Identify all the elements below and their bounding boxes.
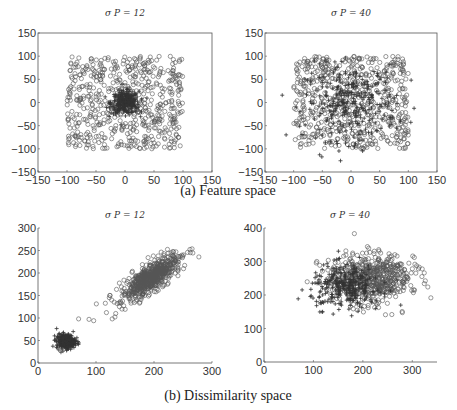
y-tick-label: 150 xyxy=(245,27,263,39)
x-tick-label: −100 xyxy=(281,174,306,186)
y-tick-label: −150 xyxy=(11,166,36,178)
y-tick-label: 200 xyxy=(18,267,36,279)
x-tick-label: 200 xyxy=(354,364,372,376)
y-tick-label: 50 xyxy=(24,73,36,85)
x-tick-label: −50 xyxy=(87,174,106,186)
y-tick-label: 100 xyxy=(18,312,36,324)
scatter-plots-canvas: −150−100−50050100150−150−100−50050100150… xyxy=(0,0,457,410)
chart-feature-sigma40: −150−100−50050100150−150−100−50050100150 xyxy=(238,27,446,186)
x-tick-label: 50 xyxy=(374,174,386,186)
y-tick-label: −50 xyxy=(17,120,36,132)
y-tick-label: 0 xyxy=(30,97,36,109)
y-tick-label: 150 xyxy=(18,27,36,39)
x-tick-label: 150 xyxy=(203,174,221,186)
x-tick-label: −100 xyxy=(55,174,80,186)
x-tick-label: 100 xyxy=(174,174,192,186)
y-tick-label: 100 xyxy=(18,50,36,62)
x-tick-label: 100 xyxy=(304,364,322,376)
y-tick-label: 150 xyxy=(18,290,36,302)
y-tick-label: −50 xyxy=(244,120,263,132)
y-tick-label: −150 xyxy=(238,166,263,178)
y-tick-label: 0 xyxy=(30,357,36,369)
y-tick-label: −100 xyxy=(238,143,263,155)
x-tick-label: 50 xyxy=(148,174,160,186)
y-tick-label: 300 xyxy=(244,256,262,268)
y-tick-label: 100 xyxy=(245,50,263,62)
axes-box xyxy=(265,33,437,172)
x-tick-label: 300 xyxy=(403,364,421,376)
y-tick-label: 0 xyxy=(256,356,262,368)
y-tick-label: 50 xyxy=(251,73,263,85)
x-tick-label: 0 xyxy=(348,174,354,186)
y-tick-label: −100 xyxy=(11,143,36,155)
y-tick-label: 200 xyxy=(244,289,262,301)
y-tick-label: 250 xyxy=(18,245,36,257)
x-tick-label: −50 xyxy=(313,174,332,186)
y-tick-label: 400 xyxy=(244,222,262,234)
y-tick-label: 50 xyxy=(24,335,36,347)
y-tick-label: 100 xyxy=(244,323,262,335)
chart-dissimilarity-sigma40: 01002003000100200300400 xyxy=(244,222,437,376)
x-tick-label: 300 xyxy=(203,365,221,377)
x-tick-label: 0 xyxy=(122,174,128,186)
x-tick-label: 100 xyxy=(399,174,417,186)
x-tick-label: 200 xyxy=(145,365,163,377)
x-tick-label: 100 xyxy=(87,365,105,377)
chart-dissimilarity-sigma12: 0100200300050100150200250300 xyxy=(18,222,222,377)
x-tick-label: 150 xyxy=(428,174,446,186)
chart-feature-sigma12: −150−100−50050100150−150−100−50050100150 xyxy=(11,27,221,186)
y-tick-label: 0 xyxy=(257,97,263,109)
y-tick-label: 300 xyxy=(18,222,36,234)
